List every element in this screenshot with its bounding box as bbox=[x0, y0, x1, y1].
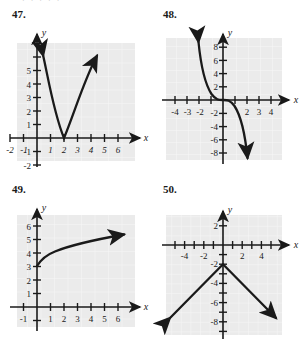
x-tick-label: 1 bbox=[48, 314, 53, 324]
x-tick-label: 4 bbox=[259, 251, 264, 261]
graph-50-svg: -4 -2 2 4 -8 -6 -4 -2 2 x y bbox=[152, 197, 305, 347]
y-tick-label: -4 bbox=[211, 122, 219, 132]
x-tick-label: 2 bbox=[62, 145, 67, 155]
problem-47: 47. bbox=[0, 0, 152, 175]
problem-50: 50. bbox=[152, 175, 305, 349]
x-axis-label: x bbox=[293, 94, 299, 105]
y-tick-label: -6 bbox=[211, 298, 219, 308]
y-tick-label: -8 bbox=[211, 148, 219, 158]
x-tick-label: 4 bbox=[89, 314, 94, 324]
x-tick-label: 2 bbox=[240, 251, 245, 261]
x-tick-label: 5 bbox=[102, 145, 107, 155]
grid-panel bbox=[17, 43, 135, 161]
y-axis-label: y bbox=[227, 204, 233, 215]
y-tick-label: 4 bbox=[214, 69, 219, 79]
y-tick-label: -2 bbox=[24, 161, 32, 171]
problem-48-graph: -4 -3 -2 2 3 4 -8 -6 -4 -2 2 4 6 8 bbox=[152, 22, 305, 172]
x-tick-label: -2 bbox=[200, 251, 208, 261]
y-tick-label: 3 bbox=[27, 93, 32, 103]
x-tick-label: -4 bbox=[181, 251, 189, 261]
y-tick-label: -2 bbox=[211, 108, 219, 118]
x-tick-label: 6 bbox=[116, 145, 121, 155]
problem-48: 48. bbox=[152, 0, 305, 175]
x-tick-label: 2 bbox=[62, 314, 67, 324]
problem-47-graph: -2 -1 1 2 3 4 5 6 -2 -1 1 2 3 4 5 bbox=[0, 22, 152, 172]
textbook-exercise-page: · · · · · 47. bbox=[0, 0, 305, 349]
x-tick-label: -2 bbox=[6, 145, 14, 155]
graph-49-svg: -1 1 2 3 4 5 6 1 2 3 4 5 6 x y bbox=[0, 197, 152, 347]
x-tick-label: 4 bbox=[269, 107, 274, 117]
x-tick-label: 6 bbox=[116, 314, 121, 324]
problem-49-number: 49. bbox=[12, 183, 26, 195]
graph-48-svg: -4 -3 -2 2 3 4 -8 -6 -4 -2 2 4 6 8 bbox=[152, 22, 305, 172]
y-tick-label: -4 bbox=[211, 278, 219, 288]
x-tick-label: 1 bbox=[48, 145, 53, 155]
y-tick-label: 2 bbox=[27, 107, 32, 117]
y-tick-label: 5 bbox=[27, 66, 32, 76]
grid-panel bbox=[166, 215, 282, 335]
y-tick-label: 8 bbox=[214, 42, 219, 52]
problem-50-graph: -4 -2 2 4 -8 -6 -4 -2 2 x y bbox=[152, 197, 305, 347]
graph-47-svg: -2 -1 1 2 3 4 5 6 -2 -1 1 2 3 4 5 bbox=[0, 22, 152, 172]
y-tick-label: 6 bbox=[214, 56, 219, 66]
x-tick-label: 5 bbox=[102, 314, 107, 324]
y-tick-label: -8 bbox=[211, 317, 219, 327]
y-tick-label: 5 bbox=[27, 235, 32, 245]
problem-50-number: 50. bbox=[163, 183, 177, 195]
x-tick-label: 3 bbox=[257, 107, 262, 117]
problem-49: 49. bbox=[0, 175, 152, 349]
y-axis-label: y bbox=[41, 27, 47, 38]
x-axis-label: x bbox=[293, 239, 299, 250]
y-tick-label: -6 bbox=[211, 135, 219, 145]
x-axis-label: x bbox=[143, 301, 149, 312]
y-tick-label: 2 bbox=[214, 221, 219, 231]
y-tick-label: 4 bbox=[27, 249, 32, 259]
x-tick-label: -3 bbox=[184, 107, 192, 117]
y-tick-label: 2 bbox=[214, 82, 219, 92]
y-tick-label: 1 bbox=[27, 120, 32, 130]
y-tick-label: 3 bbox=[27, 262, 32, 272]
x-tick-label: -2 bbox=[196, 107, 204, 117]
problem-49-graph: -1 1 2 3 4 5 6 1 2 3 4 5 6 x y bbox=[0, 197, 152, 347]
y-tick-label: 2 bbox=[27, 276, 32, 286]
x-tick-label: -4 bbox=[171, 107, 179, 117]
problem-47-number: 47. bbox=[12, 8, 26, 20]
x-tick-label: 2 bbox=[245, 107, 250, 117]
x-tick-label: 3 bbox=[75, 314, 80, 324]
x-tick-label: -1 bbox=[20, 314, 28, 324]
y-axis-label: y bbox=[227, 27, 233, 38]
y-tick-label: 1 bbox=[27, 289, 32, 299]
y-tick-label: 4 bbox=[27, 80, 32, 90]
x-axis-label: x bbox=[143, 132, 149, 143]
problem-48-number: 48. bbox=[163, 8, 177, 20]
y-tick-label: -2 bbox=[211, 259, 219, 269]
y-tick-label: 6 bbox=[27, 222, 32, 232]
y-axis-label: y bbox=[41, 202, 47, 213]
y-tick-label: -1 bbox=[24, 147, 32, 157]
x-tick-label: 4 bbox=[89, 145, 94, 155]
x-tick-label: 3 bbox=[74, 145, 80, 155]
